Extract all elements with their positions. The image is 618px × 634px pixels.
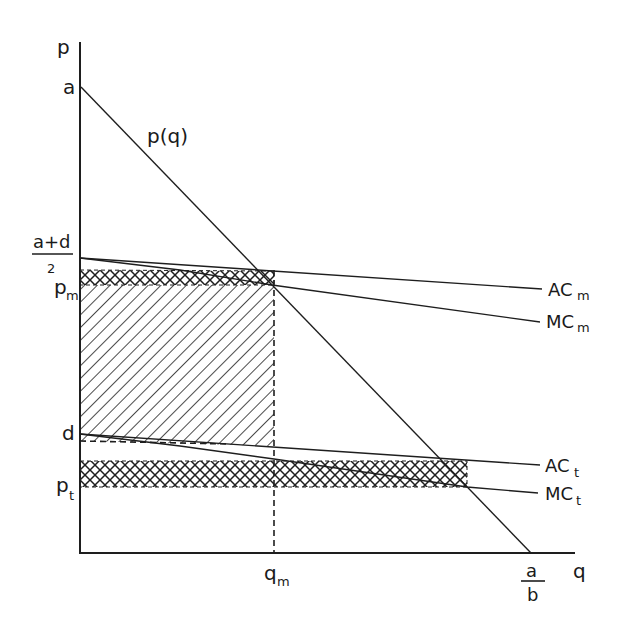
y-label-p-t: p — [56, 473, 69, 497]
y-label-a-plus-d: a+d — [33, 231, 71, 252]
ac-t-label: AC — [545, 455, 570, 476]
ac-t-label-sub: t — [574, 465, 579, 480]
upper-crosshatched-band — [80, 270, 274, 285]
ac-m-label-sub: m — [577, 288, 590, 303]
y-label-a: a — [63, 75, 75, 99]
chart-canvas: p q a a+d 2 p m d p t p(q) AC m MC m AC … — [0, 0, 618, 634]
mc-t-label: MC — [545, 483, 573, 504]
y-label-two: 2 — [47, 261, 55, 276]
x-label-q-m: q — [264, 561, 277, 585]
mc-m-label: MC — [546, 311, 574, 332]
mc-m-label-sub: m — [577, 320, 590, 335]
y-label-p-m-sub: m — [66, 288, 79, 303]
y-label-d: d — [62, 421, 75, 445]
x-axis-label: q — [573, 559, 586, 583]
y-axis-label: p — [57, 35, 70, 59]
mc-t-label-sub: t — [576, 493, 581, 508]
x-label-a-over-b-num: a — [526, 560, 537, 581]
ac-t-curve — [80, 434, 540, 465]
x-label-q-m-sub: m — [277, 574, 290, 589]
single-hatched-region — [80, 285, 274, 446]
demand-label: p(q) — [147, 124, 188, 148]
ac-m-label: AC — [548, 279, 573, 300]
x-label-a-over-b-den: b — [527, 584, 538, 605]
y-label-p-m: p — [54, 275, 67, 299]
y-label-p-t-sub: t — [69, 488, 74, 503]
economics-figure: p q a a+d 2 p m d p t p(q) AC m MC m AC … — [0, 0, 618, 634]
